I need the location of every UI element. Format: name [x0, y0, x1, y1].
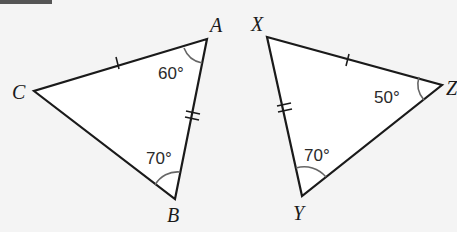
vertex-label-c: C — [12, 81, 26, 103]
vertex-label-a: A — [208, 14, 223, 36]
triangle-xyz-shape — [267, 37, 442, 196]
triangle-abc: A B C 60° 70° — [12, 14, 223, 226]
vertex-label-b: B — [167, 204, 179, 226]
angle-label-b: 70° — [146, 149, 172, 168]
angle-label-z: 50° — [374, 88, 400, 107]
vertex-label-z: Z — [446, 77, 457, 99]
angle-label-a: 60° — [158, 64, 184, 83]
triangle-abc-shape — [34, 39, 207, 199]
vertex-label-y: Y — [293, 202, 306, 224]
triangle-xyz: X Y Z 50° 70° — [250, 13, 457, 224]
angle-label-y: 70° — [304, 146, 330, 165]
congruent-triangles-diagram: A B C 60° 70° X Y Z 50° 70° — [0, 0, 457, 232]
vertex-label-x: X — [250, 13, 264, 35]
